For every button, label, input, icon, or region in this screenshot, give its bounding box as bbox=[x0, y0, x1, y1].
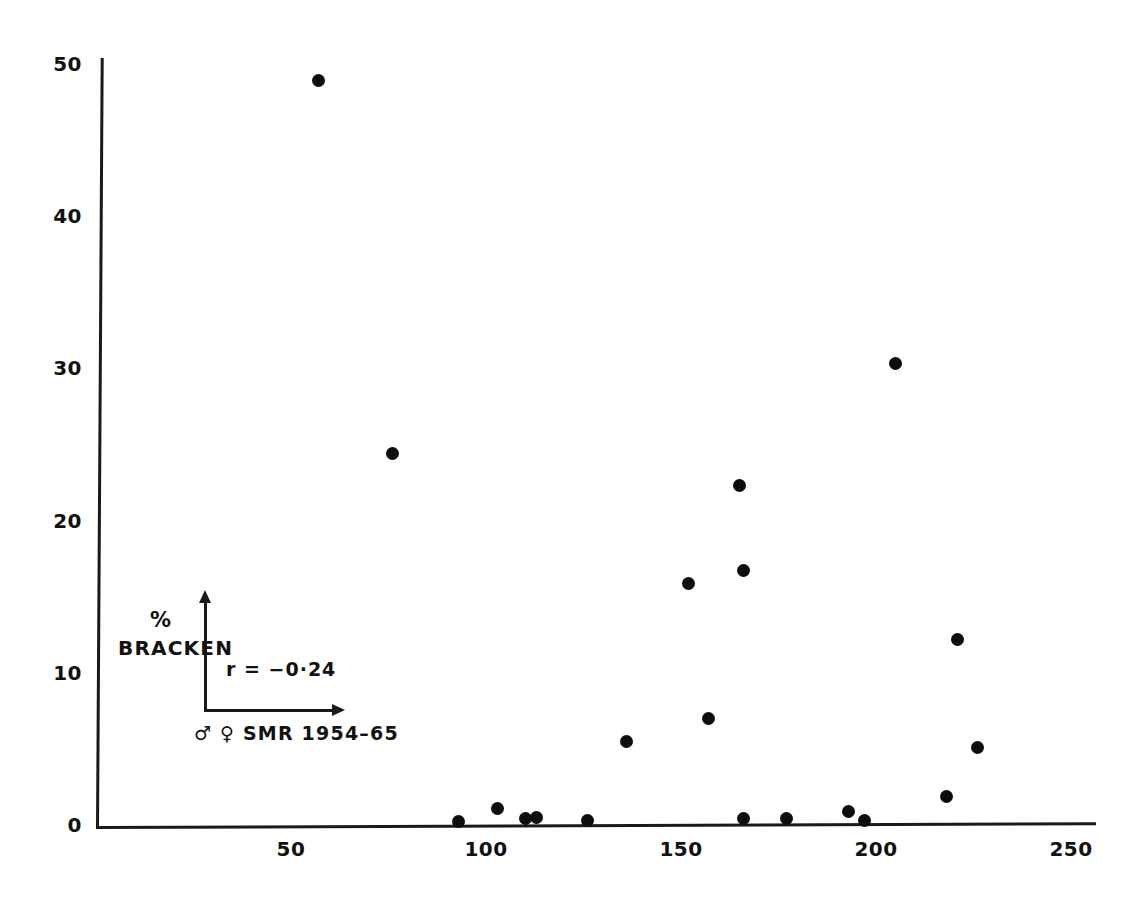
y-axis-label: BRACKEN bbox=[118, 636, 233, 660]
data-point bbox=[491, 802, 504, 815]
y-tick-label: 30 bbox=[53, 356, 82, 380]
data-point bbox=[702, 712, 715, 725]
y-axis-line bbox=[96, 58, 103, 828]
x-axis-line bbox=[96, 822, 1096, 828]
data-point bbox=[530, 811, 543, 824]
x-tick-label: 250 bbox=[1049, 837, 1092, 861]
scatter-plot-figure: 01020304050 50100150200250 % BRACKEN r =… bbox=[0, 0, 1141, 899]
y-tick-label: 20 bbox=[53, 509, 82, 533]
data-point bbox=[858, 814, 871, 827]
x-tick-label: 150 bbox=[659, 837, 702, 861]
data-point bbox=[889, 357, 902, 370]
y-tick-label: 50 bbox=[53, 52, 82, 76]
data-point bbox=[581, 814, 594, 827]
x-tick-label: 200 bbox=[854, 837, 897, 861]
data-point bbox=[951, 633, 964, 646]
data-point bbox=[733, 479, 746, 492]
y-tick-label: 10 bbox=[53, 661, 82, 685]
y-tick-label: 40 bbox=[53, 204, 82, 228]
data-point bbox=[386, 447, 399, 460]
data-point bbox=[620, 735, 633, 748]
inset-x-arrowhead-icon bbox=[332, 704, 345, 716]
data-point bbox=[312, 74, 325, 87]
y-tick-label: 0 bbox=[68, 813, 82, 837]
data-point bbox=[842, 805, 855, 818]
x-axis-label: ♂ ♀ SMR 1954–65 bbox=[194, 722, 399, 744]
x-tick-label: 50 bbox=[277, 837, 306, 861]
axis-label-inset: % BRACKEN r = −0·24 ♂ ♀ SMR 1954–65 bbox=[118, 588, 408, 758]
data-point bbox=[737, 564, 750, 577]
inset-x-axis-line bbox=[204, 709, 340, 712]
data-point bbox=[940, 790, 953, 803]
data-point bbox=[971, 741, 984, 754]
inset-y-arrowhead-icon bbox=[199, 590, 211, 603]
x-tick-label: 100 bbox=[464, 837, 507, 861]
correlation-annotation: r = −0·24 bbox=[226, 658, 336, 680]
percent-symbol-label: % bbox=[150, 608, 172, 632]
data-point bbox=[682, 577, 695, 590]
